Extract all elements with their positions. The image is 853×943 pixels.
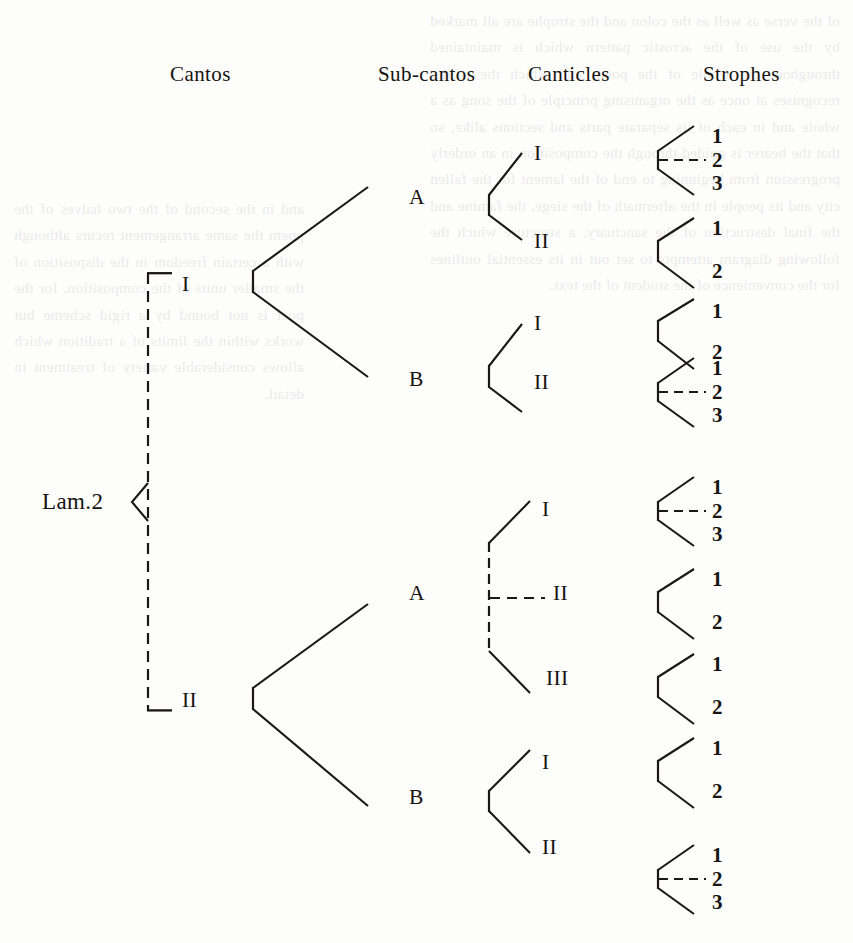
strophe-label-2a2-1: 1 bbox=[712, 567, 723, 592]
strophe-label-1a1-1: 1 bbox=[712, 124, 723, 149]
diagram-page: of the verse as well as the colon and th… bbox=[0, 0, 853, 943]
subcanto-label-1a: A bbox=[409, 185, 425, 210]
strophe-label-2a2-2: 2 bbox=[712, 610, 723, 635]
fork-strophes-1b1 bbox=[658, 299, 694, 369]
fork-strophes-2a3 bbox=[658, 654, 694, 724]
strophe-label-1a1-2: 2 bbox=[712, 148, 723, 173]
tree-connector-lines bbox=[0, 0, 853, 943]
fork-subcanto-1b bbox=[489, 324, 522, 412]
fork-subcanto-2a bbox=[489, 501, 545, 693]
subcanto-label-2b: B bbox=[409, 785, 424, 810]
fork-strophes-2a1 bbox=[658, 477, 706, 546]
canticle-label-2b2: II bbox=[542, 835, 557, 860]
strophe-label-2a1-2: 2 bbox=[712, 499, 723, 524]
fork-strophes-2b1 bbox=[658, 738, 694, 808]
strophe-label-2a3-2: 2 bbox=[712, 695, 723, 720]
fork-strophes-1a1 bbox=[658, 126, 706, 195]
strophe-label-2b1-1: 1 bbox=[712, 736, 723, 761]
fork-subcanto-2b bbox=[489, 750, 530, 853]
strophe-label-1a2-1: 1 bbox=[712, 216, 723, 241]
subcanto-label-1b: B bbox=[409, 367, 424, 392]
canticle-label-2a2: II bbox=[553, 581, 568, 606]
canto-bracket bbox=[147, 273, 172, 711]
strophe-label-1b2-3: 3 bbox=[712, 403, 723, 428]
strophe-label-1a2-2: 2 bbox=[712, 259, 723, 284]
canticle-label-2a3: III bbox=[546, 666, 568, 691]
subcanto-label-2a: A bbox=[409, 581, 425, 606]
canticle-label-2a1: I bbox=[542, 497, 549, 522]
canticle-label-1b1: I bbox=[534, 311, 541, 336]
fork-canto-2 bbox=[253, 604, 368, 806]
fork-subcanto-1a bbox=[489, 153, 522, 240]
canticle-label-2b1: I bbox=[542, 750, 549, 775]
strophe-label-2b1-2: 2 bbox=[712, 779, 723, 804]
canto-label-2: II bbox=[182, 688, 197, 713]
fork-strophes-1a2 bbox=[658, 218, 694, 288]
canticle-label-1a2: II bbox=[534, 229, 549, 254]
strophe-label-1b1-1: 1 bbox=[712, 299, 723, 324]
strophe-label-1b2-1: 1 bbox=[712, 356, 723, 381]
canto-label-1: I bbox=[182, 272, 189, 297]
strophe-label-2b2-3: 3 bbox=[712, 890, 723, 915]
fork-strophes-1b2 bbox=[658, 358, 706, 427]
root-brace bbox=[132, 483, 148, 521]
strophe-label-1b2-2: 2 bbox=[712, 380, 723, 405]
fork-strophes-2a2 bbox=[658, 569, 694, 639]
canticle-label-1b2: II bbox=[534, 370, 549, 395]
strophe-label-2b2-1: 1 bbox=[712, 843, 723, 868]
canticle-label-1a1: I bbox=[534, 141, 541, 166]
strophe-label-1a1-3: 3 bbox=[712, 171, 723, 196]
strophe-label-2a3-1: 1 bbox=[712, 652, 723, 677]
fork-strophes-2b2 bbox=[658, 845, 706, 914]
strophe-label-2a1-3: 3 bbox=[712, 522, 723, 547]
fork-canto-1 bbox=[253, 187, 368, 377]
strophe-label-2b2-2: 2 bbox=[712, 867, 723, 892]
strophe-label-2a1-1: 1 bbox=[712, 475, 723, 500]
